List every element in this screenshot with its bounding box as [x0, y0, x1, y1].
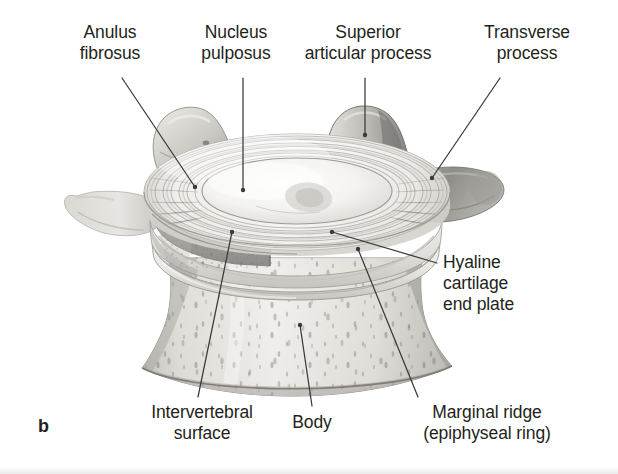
label-body: Body: [272, 412, 352, 433]
label-superior-articular-process: Superior articular process: [288, 22, 448, 64]
label-intervertebral-surface: Intervertebral surface: [132, 402, 272, 444]
label-marginal-ridge: Marginal ridge (epiphyseal ring): [392, 402, 582, 444]
label-anulus-fibrosus: Anulus fibrosus: [50, 22, 170, 64]
label-transverse-process: Transverse process: [462, 22, 592, 64]
label-nucleus-pulposus: Nucleus pulposus: [176, 22, 296, 64]
bottom-edge-band: [0, 467, 618, 474]
label-hyaline-cartilage-end-plate: Hyaline cartilage end plate: [443, 252, 593, 315]
nucleus-shape: [202, 158, 392, 224]
anatomy-figure: Anulus fibrosus Nucleus pulposus Superio…: [0, 0, 618, 474]
tp-left-shape: [64, 191, 156, 235]
panel-letter: b: [38, 416, 49, 437]
